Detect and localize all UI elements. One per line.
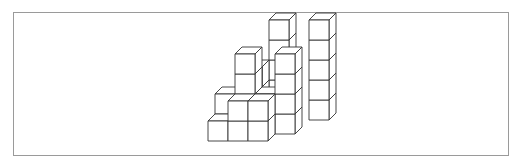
cube: [309, 13, 336, 40]
cube: [235, 47, 262, 74]
cube-front-face: [309, 100, 329, 120]
cube-front-face: [235, 74, 255, 94]
cube: [269, 13, 296, 40]
cube-front-face: [208, 121, 228, 141]
cube-front-face: [275, 54, 295, 74]
cube-front-face: [275, 94, 295, 114]
cube-front-face: [275, 114, 295, 134]
cube-front-face: [228, 121, 248, 141]
cube: [248, 94, 275, 121]
cube-front-face: [309, 20, 329, 40]
cube-front-face: [275, 74, 295, 94]
cube-stack-diagram: [0, 0, 518, 168]
cube-front-face: [309, 40, 329, 60]
cube: [275, 47, 302, 74]
cube-front-face: [248, 101, 268, 121]
cube-front-face: [248, 121, 268, 141]
cube-front-face: [309, 80, 329, 100]
cube-front-face: [269, 20, 289, 40]
cube-front-face: [228, 101, 248, 121]
cube-front-face: [309, 60, 329, 80]
cube-front-face: [235, 54, 255, 74]
